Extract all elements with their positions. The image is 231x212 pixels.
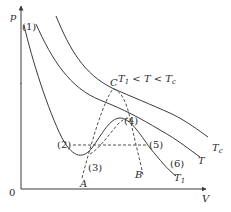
critical-point-label: C xyxy=(110,77,118,88)
x-axis-label: V xyxy=(202,193,211,204)
origin-label: 0 xyxy=(9,187,15,198)
point-1-label: (1) xyxy=(22,21,36,32)
isotherm-t1-label: T1 xyxy=(174,172,185,185)
point-5-label: (5) xyxy=(149,139,163,150)
condition-label: T1 < T < Tc xyxy=(118,73,176,86)
point-2-label: (2) xyxy=(57,139,71,150)
point-3-label: (3) xyxy=(88,162,102,173)
point-6-label: (6) xyxy=(170,158,184,169)
point-b-label: B xyxy=(134,169,142,180)
point-a-label: A xyxy=(79,178,87,189)
point-4-label: (4) xyxy=(124,115,138,126)
pv-diagram: p V 0 T1 < T < Tc Tc T T1 C A B (1) (2) … xyxy=(0,0,231,212)
isotherm-t-label: T xyxy=(198,155,206,166)
y-axis-label: p xyxy=(10,11,17,22)
isotherm-tc-label: Tc xyxy=(212,142,223,155)
